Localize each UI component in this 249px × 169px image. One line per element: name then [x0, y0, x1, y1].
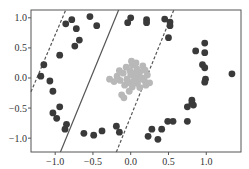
x-tick-label: −1.0 — [46, 156, 64, 167]
data-point — [124, 79, 131, 86]
data-point — [188, 97, 195, 104]
x-tick-label: 1.0 — [200, 156, 213, 167]
data-point — [40, 61, 47, 68]
data-point — [148, 126, 155, 133]
data-point — [116, 67, 123, 74]
data-point — [46, 78, 53, 85]
data-point — [126, 88, 133, 95]
data-point — [62, 20, 69, 27]
data-point — [62, 126, 69, 133]
data-point — [76, 37, 83, 44]
data-point — [132, 70, 139, 77]
y-tick-label: −1.0 — [9, 133, 27, 144]
y-tick-label: −0.5 — [9, 103, 27, 114]
data-point — [143, 19, 150, 26]
data-point — [124, 19, 131, 26]
data-point — [56, 52, 63, 59]
data-point — [167, 22, 174, 29]
y-tick-label: 0.5 — [15, 42, 28, 53]
data-point — [50, 88, 57, 95]
x-tick-label: 0.0 — [124, 156, 137, 167]
data-point — [145, 133, 152, 140]
data-point — [142, 67, 149, 74]
data-point — [73, 25, 80, 32]
data-point — [170, 118, 177, 125]
data-point — [229, 70, 236, 77]
data-point — [136, 76, 143, 83]
data-point — [121, 94, 128, 101]
y-axis: 1.00.50.0−0.5−1.0 — [9, 12, 31, 143]
y-tick-label: 0.0 — [15, 72, 28, 83]
data-point — [184, 118, 191, 125]
x-tick-label: −0.5 — [84, 156, 102, 167]
data-point — [71, 43, 78, 50]
data-point — [113, 123, 120, 130]
data-point — [201, 40, 208, 47]
scatter-chart: −1.0−0.50.00.51.0 1.00.50.0−0.5−1.0 — [0, 0, 249, 169]
data-point — [90, 132, 97, 139]
data-point — [56, 103, 63, 110]
data-point — [68, 16, 75, 23]
data-point — [37, 73, 44, 80]
data-point — [87, 13, 94, 20]
data-point — [53, 115, 60, 122]
data-point — [192, 48, 199, 55]
x-axis: −1.0−0.50.00.51.0 — [46, 152, 212, 167]
data-point — [136, 84, 143, 91]
data-point — [165, 34, 172, 41]
data-point — [155, 136, 162, 143]
data-point — [146, 79, 153, 86]
data-point — [158, 126, 165, 133]
y-tick-label: 1.0 — [15, 12, 28, 23]
data-point — [201, 64, 208, 71]
data-point — [106, 76, 113, 83]
data-point — [93, 22, 100, 29]
x-tick-label: 0.5 — [162, 156, 175, 167]
data-point — [116, 129, 123, 136]
data-point — [201, 49, 208, 56]
data-point — [80, 130, 87, 137]
data-point — [201, 79, 208, 86]
data-point — [128, 58, 135, 65]
data-point — [99, 128, 106, 135]
